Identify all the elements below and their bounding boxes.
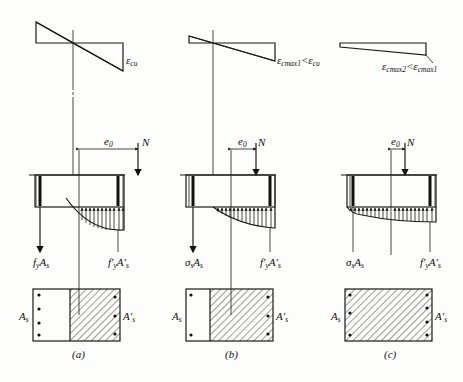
caption-a: (a) [72,348,85,361]
svg-text:A′s: A′s [122,310,135,324]
compression-force-label-a: f′yA′s [108,256,129,270]
strain-label-c: εcmax2<εcmax1 [382,60,437,74]
tension-force-label-b: σsAs [185,256,203,270]
svg-text:e0: e0 [238,135,247,149]
compression-force-label-b: f′yA′s [260,256,281,270]
compression-force-label-c: f′yA′s [420,256,441,270]
stress-arrows-b [218,208,271,228]
panel-a: εcu e0 N [18,22,150,361]
strain-diagram-a: εcu [36,22,138,175]
strain-label-a: εcu [126,54,138,68]
svg-text:As: As [18,310,29,324]
svg-text:e0: e0 [391,135,400,149]
svg-text:A′s: A′s [275,310,288,324]
strain-diagram-c: εcmax2<εcmax1 [340,43,437,74]
load-label-a: N [141,136,150,148]
caption-c: (c) [384,348,397,361]
panel-b: εcmax1<εcu e0 N [171,30,320,361]
eccentricity-b: e0 N [231,135,266,315]
stress-arrows-a [82,208,123,230]
cross-section-b: As A′s (b) [171,289,288,361]
panel-c: εcmax2<εcmax1 e0 N [330,43,447,361]
cross-section-c: As A′s (c) [330,289,447,361]
load-label-b: N [257,136,266,148]
svg-text:As: As [171,310,182,324]
tension-force-label-c: σsAs [346,256,364,270]
load-label-c: N [406,136,415,148]
svg-text:As: As [330,310,341,324]
caption-b: (b) [225,348,238,361]
section-elevation-b: σsAs f′yA′s [180,175,281,270]
svg-text:A′s: A′s [434,310,447,324]
eccentricity-c: e0 N [391,135,415,255]
eccentric-compression-diagram: εcu e0 N [0,0,463,382]
tension-force-label-a: fyAs [33,256,49,270]
svg-text:e0: e0 [104,135,113,149]
strain-diagram-b: εcmax1<εcu [189,30,320,175]
strain-label-b: εcmax1<εcu [277,54,320,68]
cross-section-a: As A′s (a) [18,289,135,361]
